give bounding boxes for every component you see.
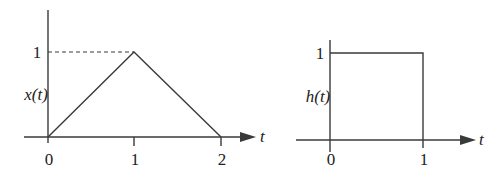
xtick-1-label: 1: [131, 150, 140, 169]
y-label-x-of-t: x(t): [23, 85, 48, 104]
y-label-h-of-t: h(t): [306, 87, 331, 106]
x-label-t: t: [260, 127, 266, 146]
ytick-1-label: 1: [316, 44, 325, 63]
xtick-0-label: 0: [327, 150, 336, 169]
x-axis-arrow-icon: [460, 135, 476, 145]
triangle-signal: [48, 52, 221, 137]
plot-h-of-t: 1 h(t) 0 1 t: [296, 40, 485, 169]
x-axis-arrow-icon: [240, 132, 256, 142]
ytick-1-label: 1: [33, 43, 42, 62]
signal-diagram: 1 x(t) 0 1 2 t 1 h(t) 0 1 t: [0, 0, 504, 177]
xtick-0-label: 0: [45, 150, 54, 169]
x-label-t: t: [479, 130, 485, 149]
xtick-2-label: 2: [218, 150, 227, 169]
plot-x-of-t: 1 x(t) 0 1 2 t: [23, 10, 266, 169]
rect-pulse-signal: [330, 53, 423, 148]
xtick-1-label: 1: [420, 150, 429, 169]
